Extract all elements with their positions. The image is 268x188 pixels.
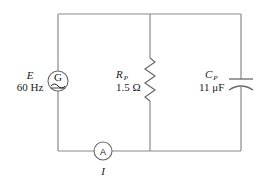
resistor-value-label: 1.5 Ω — [116, 81, 141, 93]
ammeter-symbol: A — [94, 142, 112, 160]
resistor-name-main: R — [116, 68, 123, 80]
circuit-schematic: G A — [0, 0, 268, 188]
source-frequency-label: 60 Hz — [13, 81, 47, 93]
generator-letter: G — [54, 71, 62, 83]
ammeter-letter: A — [100, 147, 106, 157]
capacitor-name-main: C — [205, 68, 212, 80]
current-label: I — [96, 165, 110, 177]
generator-symbol: G — [48, 71, 68, 91]
resistor-symbol — [145, 58, 155, 101]
capacitor-value-label: 11 μF — [199, 81, 224, 93]
source-name-label: E — [22, 69, 38, 81]
circuit-diagram: G A E 60 Hz RP 1.5 Ω CP 11 μF I — [0, 0, 268, 188]
